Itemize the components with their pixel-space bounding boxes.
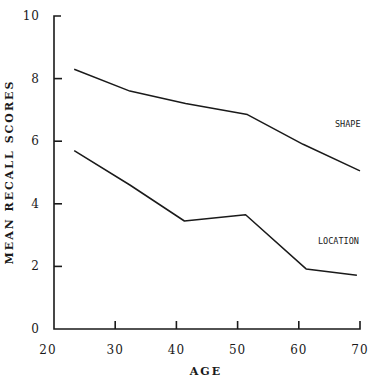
y-tick-label: 2 [31, 259, 40, 273]
y-axis-title: MEAN RECALL SCORES [3, 80, 16, 265]
series-line-shape [74, 69, 360, 171]
y-tick-label: 8 [31, 72, 40, 86]
x-tick-label: 60 [290, 343, 307, 357]
axes: 0246810203040506070 [23, 9, 369, 357]
series-label-shape: SHAPE [335, 119, 361, 129]
series-label-location: LOCATION [318, 236, 359, 246]
x-tick-label: 40 [168, 343, 185, 357]
x-tick-label: 20 [39, 343, 56, 357]
y-tick-label: 6 [31, 134, 40, 148]
x-tick-label: 70 [351, 343, 368, 357]
y-tick-label: 10 [23, 9, 40, 23]
series-line-location [74, 151, 357, 276]
line-chart: 0246810203040506070 SHAPE LOCATION AGE M… [0, 0, 377, 383]
x-tick-label: 30 [107, 343, 124, 357]
x-axis-title: AGE [189, 365, 222, 378]
y-tick-label: 4 [31, 197, 40, 211]
axis-lines [54, 16, 360, 329]
y-tick-label: 0 [31, 322, 40, 336]
x-tick-label: 50 [229, 343, 246, 357]
